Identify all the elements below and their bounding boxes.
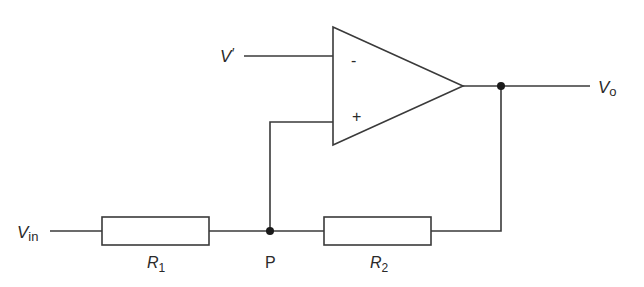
r1-label: R1: [147, 254, 166, 275]
vref-label: V′: [220, 45, 235, 66]
minus-sign: -: [351, 52, 356, 69]
circuit-svg: V′ - + Vo Vin R1 P R2: [0, 0, 644, 287]
vin-label: Vin: [17, 223, 38, 244]
vout-label: Vo: [598, 78, 617, 99]
op-amp-symbol: [333, 27, 463, 145]
r2-label: R2: [370, 254, 389, 275]
noninverting-input-wire: [270, 122, 333, 231]
feedback-wire: [431, 86, 501, 231]
node-p-dot: [266, 227, 274, 235]
node-vo-dot: [497, 82, 505, 90]
circuit-diagram: V′ - + Vo Vin R1 P R2: [0, 0, 644, 287]
resistor-r2: [324, 217, 431, 245]
plus-sign: +: [352, 108, 361, 125]
node-p-label: P: [265, 254, 276, 271]
resistor-r1: [102, 217, 209, 245]
